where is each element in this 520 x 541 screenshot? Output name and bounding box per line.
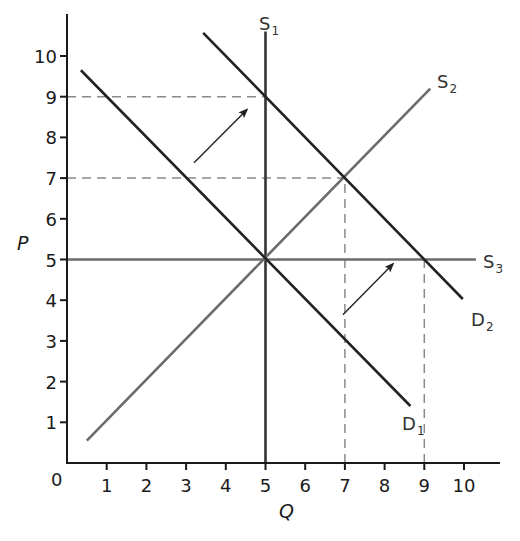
x-tick-label: 7 [339,475,350,496]
y-tick-label: 7 [46,168,57,189]
curve-label-d2: D2 [471,309,494,334]
curve-label-s2: S2 [437,71,457,96]
x-ticks: 12345678910 [101,463,475,496]
curve-label-d1: D1 [402,413,425,438]
reference-dashed-lines [67,97,424,463]
y-tick-label: 3 [46,331,57,352]
y-tick-label: 8 [46,127,57,148]
curve-s2 [87,89,430,441]
y-tick-label: 2 [46,372,57,393]
y-axis-title: P [17,232,29,254]
x-tick-label: 9 [419,475,430,496]
x-tick-label: 2 [141,475,152,496]
x-tick-label: 1 [101,475,112,496]
x-tick-label: 4 [220,475,231,496]
origin-label: 0 [51,469,62,490]
x-axis-title: Q [279,500,294,522]
x-tick-label: 5 [260,475,271,496]
x-tick-label: 8 [379,475,390,496]
y-tick-label: 6 [46,209,57,230]
y-tick-label: 4 [46,290,57,311]
x-tick-label: 10 [453,475,476,496]
shift-arrow-icon [343,264,393,315]
y-tick-label: 10 [34,46,57,67]
x-tick-label: 3 [180,475,191,496]
y-ticks: 12345678910 [34,46,67,433]
shift-arrows [194,110,393,315]
curve-label-s3: S3 [483,251,503,276]
y-tick-label: 1 [46,412,57,433]
y-tick-label: 5 [46,250,57,271]
curve-label-s1: S1 [259,13,279,38]
curve-d1 [81,70,411,406]
shift-arrow-icon [194,110,247,163]
y-tick-label: 9 [46,87,57,108]
x-tick-label: 6 [299,475,310,496]
supply-demand-chart: 12345678910 12345678910 0 Q P S1S2S3D1D2 [0,0,520,541]
